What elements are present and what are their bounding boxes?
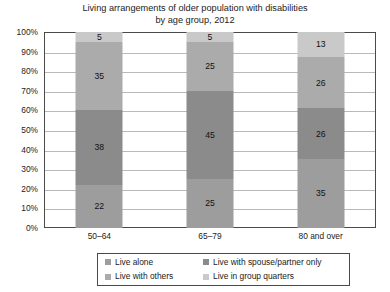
bar-segment[interactable]: 26: [297, 57, 344, 108]
legend-entry[interactable]: Live in group quarters: [203, 272, 349, 281]
x-axis: 50–6465–7980 and over: [44, 231, 376, 245]
bar-segment[interactable]: 35: [297, 159, 344, 228]
chart-legend: Live aloneLive with spouse/partner onlyL…: [97, 253, 350, 286]
bar-segment[interactable]: 35: [76, 42, 123, 111]
bar-segment-value: 35: [95, 72, 105, 81]
bar-segment[interactable]: 25: [186, 42, 233, 91]
legend-entry[interactable]: Live alone: [105, 258, 203, 267]
legend-swatch-icon: [105, 274, 111, 280]
y-tick-label: 90%: [21, 47, 38, 55]
legend-label: Live in group quarters: [213, 272, 294, 281]
y-tick-label: 80%: [21, 67, 38, 75]
bar-group: 35262613: [265, 32, 376, 228]
bar-segment-value: 45: [205, 131, 215, 140]
y-tick-label: 30%: [21, 165, 38, 173]
bar-segment[interactable]: 22: [76, 185, 123, 228]
y-tick-label: 20%: [21, 185, 38, 193]
bars-layer: 2238355254525535262613: [44, 32, 376, 228]
bar-segment-value: 35: [316, 189, 326, 198]
bar-segment-value: 25: [205, 62, 215, 71]
bar-segment[interactable]: 5: [76, 32, 123, 42]
bar-segment-value: 38: [95, 143, 105, 152]
y-axis: 0%10%20%30%40%50%60%70%80%90%100%: [0, 32, 41, 228]
bar-segment-value: 22: [95, 202, 105, 211]
y-tick-label: 40%: [21, 145, 38, 153]
chart-title-line-2: by age group, 2012: [0, 14, 390, 26]
legend-entry[interactable]: Live with spouse/partner only: [203, 258, 349, 267]
legend-label: Live alone: [115, 258, 153, 267]
legend-label: Live with spouse/partner only: [213, 258, 321, 267]
bar-segment[interactable]: 26: [297, 108, 344, 159]
bar-stack[interactable]: 35262613: [297, 32, 344, 228]
bar-segment-value: 5: [97, 33, 102, 42]
bar-segment-value: 13: [316, 40, 326, 49]
legend-swatch-icon: [105, 259, 111, 265]
bar-group: 2545255: [155, 32, 266, 228]
chart-title-line-1: Living arrangements of older population …: [0, 2, 390, 14]
y-tick-label: 10%: [21, 204, 38, 212]
y-tick-label: 50%: [21, 126, 38, 134]
bar-segment-value: 26: [316, 79, 326, 88]
x-tick-label: 80 and over: [265, 231, 376, 241]
bar-group: 2238355: [44, 32, 155, 228]
chart-title: Living arrangements of older population …: [0, 2, 390, 26]
legend-label: Live with others: [115, 272, 173, 281]
y-tick-label: 70%: [21, 87, 38, 95]
y-tick-label: 0%: [26, 224, 38, 232]
bar-segment[interactable]: 13: [297, 32, 344, 57]
bar-stack[interactable]: 2238355: [76, 32, 123, 228]
bar-segment-value: 25: [205, 199, 215, 208]
x-tick-label: 50–64: [44, 231, 155, 241]
y-tick-label: 100%: [17, 28, 38, 36]
bar-segment[interactable]: 38: [76, 110, 123, 184]
bar-segment[interactable]: 5: [186, 32, 233, 42]
bar-segment[interactable]: 25: [186, 179, 233, 228]
y-tick-label: 60%: [21, 106, 38, 114]
bar-segment[interactable]: 45: [186, 91, 233, 179]
legend-entry[interactable]: Live with others: [105, 272, 203, 281]
bar-stack[interactable]: 2545255: [186, 32, 233, 228]
bar-segment-value: 5: [208, 33, 213, 42]
legend-swatch-icon: [203, 259, 209, 265]
legend-swatch-icon: [203, 274, 209, 280]
x-tick-label: 65–79: [155, 231, 266, 241]
bar-segment-value: 26: [316, 130, 326, 139]
